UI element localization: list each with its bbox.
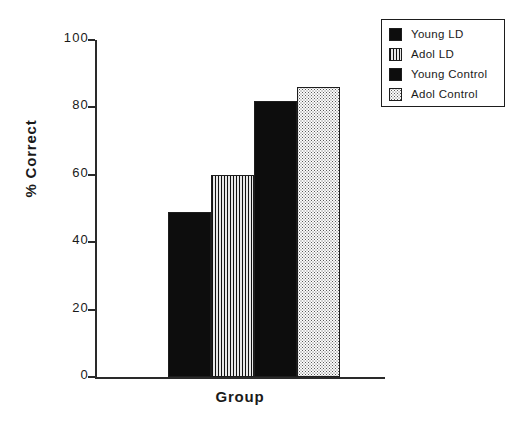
y-tick-mark — [88, 106, 95, 108]
legend-swatch-icon — [389, 28, 402, 41]
chart-legend: Young LDAdol LDYoung ControlAdol Control — [381, 19, 505, 107]
y-tick-label: 100 — [43, 30, 89, 45]
y-tick-mark — [88, 39, 95, 41]
y-tick-label: 40 — [43, 232, 89, 247]
legend-item-label: Adol LD — [411, 48, 454, 60]
bar-adol-control — [297, 87, 340, 377]
legend-item-adol-control[interactable]: Adol Control — [382, 84, 504, 104]
bar-young-ld — [168, 212, 211, 377]
y-tick-mark — [88, 376, 95, 378]
x-axis-label: Group — [95, 388, 385, 405]
y-tick-label: 0 — [43, 367, 89, 382]
plot-area: 100806040200 — [95, 40, 385, 377]
legend-swatch-icon — [389, 48, 402, 61]
y-tick-label: 60 — [43, 165, 89, 180]
bar-young-control — [254, 101, 297, 377]
y-tick-mark — [88, 174, 95, 176]
legend-item-young-control[interactable]: Young Control — [382, 64, 504, 84]
bar-group — [95, 40, 385, 377]
bar-adol-ld — [211, 175, 254, 377]
y-tick-label: 20 — [43, 300, 89, 315]
legend-item-young-ld[interactable]: Young LD — [382, 24, 504, 44]
y-tick-mark — [88, 241, 95, 243]
legend-swatch-icon — [389, 88, 402, 101]
x-axis-line — [95, 377, 385, 379]
y-tick-mark — [88, 309, 95, 311]
bar-chart-figure: % Correct 100806040200 Group Young LDAdo… — [0, 0, 523, 423]
legend-item-adol-ld[interactable]: Adol LD — [382, 44, 504, 64]
legend-item-label: Young LD — [411, 28, 464, 40]
legend-item-label: Young Control — [411, 68, 487, 80]
y-tick-label: 80 — [43, 97, 89, 112]
legend-swatch-icon — [389, 68, 402, 81]
legend-item-label: Adol Control — [411, 88, 478, 100]
y-axis-label: % Correct — [22, 89, 39, 229]
